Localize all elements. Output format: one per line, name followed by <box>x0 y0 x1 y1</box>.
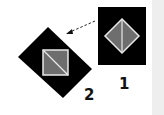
arrow-shaft <box>70 21 95 32</box>
diagram-canvas: 2 1 <box>0 0 164 115</box>
arrow-head-icon <box>66 29 73 34</box>
diagram-svg <box>0 0 164 115</box>
figure-2 <box>18 27 92 98</box>
figure-1-label: 1 <box>119 77 129 92</box>
figure-2-label: 2 <box>84 88 94 103</box>
figure-1 <box>98 7 146 65</box>
dashed-arrow <box>66 21 95 34</box>
page-edge <box>152 0 164 115</box>
